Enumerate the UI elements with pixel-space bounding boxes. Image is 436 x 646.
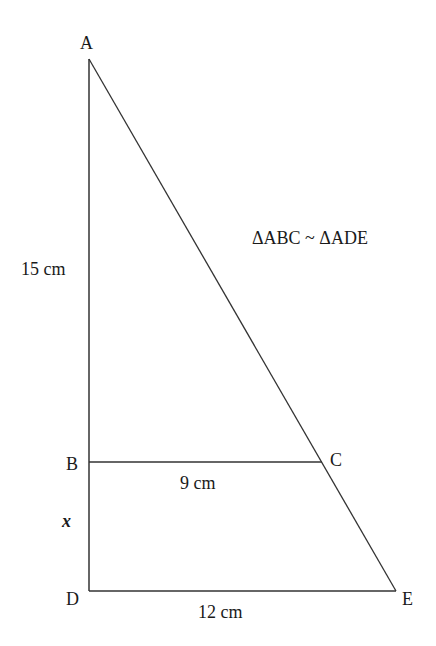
- vertex-label-c: C: [330, 451, 342, 469]
- measurement-de: 12 cm: [198, 603, 243, 621]
- measurement-ab: 15 cm: [21, 260, 66, 278]
- vertex-label-d: D: [66, 590, 79, 608]
- measurement-bd-x: x: [62, 512, 71, 530]
- segment-AE: [89, 59, 396, 591]
- vertex-label-e: E: [402, 590, 413, 608]
- similarity-statement: ΔABC ~ ΔADE: [252, 229, 368, 247]
- triangle-diagram: [0, 0, 436, 646]
- vertex-label-a: A: [80, 34, 93, 52]
- vertex-label-b: B: [66, 455, 78, 473]
- measurement-bc: 9 cm: [180, 474, 216, 492]
